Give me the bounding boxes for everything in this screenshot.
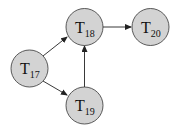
node-label: T: [75, 97, 85, 114]
node-t20: T20: [132, 9, 169, 46]
diagram-canvas: T17 T18 T19 T20: [0, 0, 180, 133]
node-label: T: [20, 60, 30, 77]
node-t17: T17: [11, 50, 48, 87]
edge-t17-t18: [43, 37, 67, 56]
edge-t17-t19: [43, 81, 67, 95]
node-label: T: [75, 19, 85, 36]
node-t19: T19: [66, 87, 103, 124]
node-subscript: 19: [85, 106, 95, 117]
node-t18: T18: [66, 9, 103, 46]
node-subscript: 17: [30, 69, 40, 80]
node-subscript: 20: [151, 28, 161, 39]
node-subscript: 18: [85, 28, 95, 39]
node-label: T: [141, 19, 151, 36]
